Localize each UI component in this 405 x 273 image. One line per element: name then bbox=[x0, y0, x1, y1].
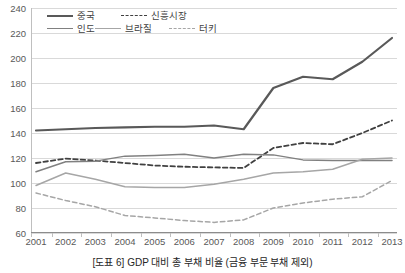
series-line-중국 bbox=[36, 38, 392, 131]
series-lines bbox=[31, 8, 397, 233]
y-axis-tick-label: 180 bbox=[0, 78, 26, 89]
x-axis-labels: 2001200220032004200520062007200820092010… bbox=[31, 236, 397, 252]
x-axis-tick-label: 2009 bbox=[263, 236, 284, 247]
grid-line bbox=[31, 233, 397, 234]
chart-caption: [도표 6] GDP 대비 총 부채 비율 (금융 부문 부채 제외) bbox=[0, 254, 405, 269]
x-axis-tick-label: 2001 bbox=[25, 236, 46, 247]
x-axis-tick-label: 2008 bbox=[233, 236, 254, 247]
series-line-브라질 bbox=[36, 158, 392, 187]
legend-label: 터키 bbox=[199, 24, 217, 34]
series-line-터키 bbox=[36, 181, 392, 223]
legend-swatch-dashed bbox=[121, 15, 147, 16]
series-line-인도 bbox=[36, 154, 392, 172]
y-axis-tick-label: 140 bbox=[0, 128, 26, 139]
legend-swatch-solid bbox=[47, 15, 73, 17]
x-axis-tick-label: 2002 bbox=[55, 236, 76, 247]
x-axis-tick-label: 2007 bbox=[203, 236, 224, 247]
y-axis-tick-label: 100 bbox=[0, 178, 26, 189]
x-axis-tick-label: 2010 bbox=[292, 236, 313, 247]
legend-item-인도[interactable]: 인도 bbox=[47, 24, 95, 34]
x-axis-tick-label: 2013 bbox=[381, 236, 402, 247]
y-axis-tick-label: 220 bbox=[0, 28, 26, 39]
y-axis-tick-label: 160 bbox=[0, 103, 26, 114]
legend-label: 브라질 bbox=[125, 24, 152, 34]
plot-area bbox=[31, 8, 397, 233]
y-axis-tick-label: 120 bbox=[0, 153, 26, 164]
legend-label: 신흥시장 bbox=[151, 11, 187, 21]
x-axis-tick-label: 2004 bbox=[114, 236, 135, 247]
legend-swatch-dashed bbox=[169, 28, 195, 29]
legend-label: 인도 bbox=[77, 24, 95, 34]
legend-swatch-solid bbox=[95, 28, 121, 29]
x-axis-tick-label: 2012 bbox=[352, 236, 373, 247]
legend-item-터키[interactable]: 터키 bbox=[169, 24, 217, 34]
x-axis-tick-label: 2006 bbox=[174, 236, 195, 247]
x-axis-tick-label: 2003 bbox=[85, 236, 106, 247]
legend-item-신흥시장[interactable]: 신흥시장 bbox=[121, 11, 203, 21]
x-axis-tick-label: 2011 bbox=[322, 236, 342, 247]
legend-item-중국[interactable]: 중국 bbox=[47, 11, 121, 21]
legend-swatch-solid bbox=[47, 28, 73, 29]
y-axis-tick-label: 60 bbox=[0, 228, 26, 239]
chart-container: 6080100120140160180200220240 20012002200… bbox=[0, 0, 405, 273]
legend-item-브라질[interactable]: 브라질 bbox=[95, 24, 169, 34]
chart-legend: 중국신흥시장인도브라질터키 bbox=[47, 11, 237, 33]
y-axis-tick-label: 240 bbox=[0, 3, 26, 14]
x-axis-tick-label: 2005 bbox=[144, 236, 165, 247]
y-axis-tick-label: 200 bbox=[0, 53, 26, 64]
legend-label: 중국 bbox=[77, 11, 95, 21]
y-axis-tick-label: 80 bbox=[0, 203, 26, 214]
